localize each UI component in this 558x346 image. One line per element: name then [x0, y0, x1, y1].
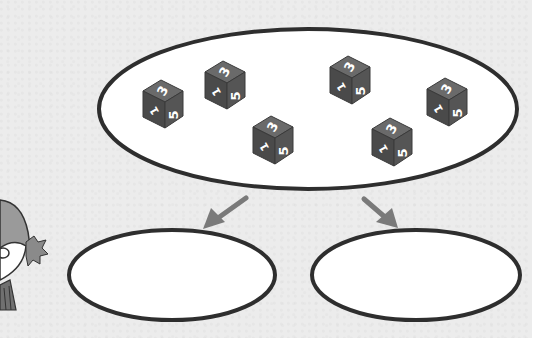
arrow-down-left-icon [203, 198, 246, 229]
arrow-down-right-icon [364, 199, 398, 228]
target-group-right-ellipse [312, 230, 520, 320]
dice-grouping-illustration: 3 1 5 [0, 0, 558, 346]
cartoon-character [0, 200, 48, 310]
target-group-left-ellipse [69, 230, 275, 320]
